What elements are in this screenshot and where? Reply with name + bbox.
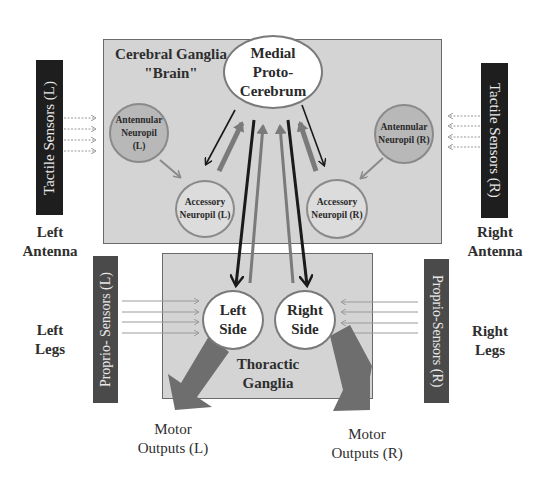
left-legs-line1: Left [20, 321, 80, 340]
motor-outputs-left-label: Motor Outputs (L) [128, 420, 218, 458]
medial-line1: Medial [240, 44, 306, 63]
antennular-left-line1: Antennular [116, 114, 163, 127]
right-side-node: Right Side [274, 290, 336, 350]
medial-to-accessory-left-arrow [206, 110, 235, 164]
accessory-right-line1: Accessory [311, 196, 362, 209]
motor-right-line2: Outputs (R) [322, 444, 412, 463]
tactile-right-input-arrows [448, 116, 480, 147]
right-antenna-label: Right Antenna [455, 223, 535, 261]
left-side-node: Left Side [202, 290, 264, 350]
medial-protocerebrum-node: Medial Proto- Cerebrum [223, 35, 323, 109]
antennular-left-to-accessory-arrow [160, 160, 180, 177]
medial-line2: Proto- [240, 63, 306, 82]
proprio-right-input-arrows [341, 302, 418, 333]
accessory-left-line1: Accessory [180, 196, 231, 209]
right-side-line2: Side [287, 320, 323, 339]
antennular-right-line2: Neuropil (R) [378, 134, 429, 147]
motor-left-line2: Outputs (L) [128, 439, 218, 458]
motor-output-right-arrow [330, 325, 372, 411]
accessory-right-to-medial-arrow [300, 123, 316, 171]
antennular-neuropil-left-node: Antennular Neuropil (L) [109, 103, 169, 163]
right-legs-label: Right Legs [458, 322, 522, 360]
motor-left-line1: Motor [128, 420, 218, 439]
antennular-right-line1: Antennular [378, 121, 429, 134]
left-side-line1: Left [219, 301, 247, 320]
left-antenna-line2: Antenna [10, 242, 90, 261]
tactile-left-input-arrows [64, 118, 96, 151]
right-legs-line1: Right [458, 322, 522, 341]
accessory-right-line2: Neuropil (R) [311, 209, 362, 222]
right-antenna-line2: Antenna [455, 242, 535, 261]
left-antenna-label: Left Antenna [10, 223, 90, 261]
antennular-left-line3: (L) [116, 140, 163, 153]
accessory-neuropil-right-node: Accessory Neuropil (R) [306, 179, 368, 239]
antennular-left-line2: Neuropil [116, 127, 163, 140]
medial-line3: Cerebrum [240, 82, 306, 101]
proprio-left-input-arrows [122, 301, 199, 333]
right-legs-line2: Legs [458, 341, 522, 360]
motor-right-line1: Motor [322, 425, 412, 444]
left-legs-label: Left Legs [20, 321, 80, 359]
antennular-right-to-accessory-arrow [361, 158, 383, 178]
accessory-neuropil-left-node: Accessory Neuropil (L) [175, 180, 235, 238]
motor-outputs-right-label: Motor Outputs (R) [322, 425, 412, 463]
left-side-line2: Side [219, 320, 247, 339]
left-legs-line2: Legs [20, 340, 80, 359]
right-antenna-line1: Right [455, 223, 535, 242]
accessory-left-line2: Neuropil (L) [180, 209, 231, 222]
left-antenna-line1: Left [10, 223, 90, 242]
right-side-line1: Right [287, 301, 323, 320]
accessory-left-to-medial-arrow [219, 123, 242, 171]
antennular-neuropil-right-node: Antennular Neuropil (R) [374, 104, 434, 164]
